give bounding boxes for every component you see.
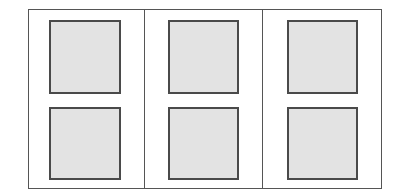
panel-r1-c3 <box>287 20 358 94</box>
panel-r2-c2 <box>168 107 239 180</box>
panel-r2-c1 <box>49 107 121 180</box>
panel-r1-c2 <box>168 20 239 94</box>
panel-r1-c1 <box>49 20 121 94</box>
panel-r2-c3 <box>287 107 358 180</box>
column-divider-1 <box>144 9 145 189</box>
column-divider-2 <box>262 9 263 189</box>
